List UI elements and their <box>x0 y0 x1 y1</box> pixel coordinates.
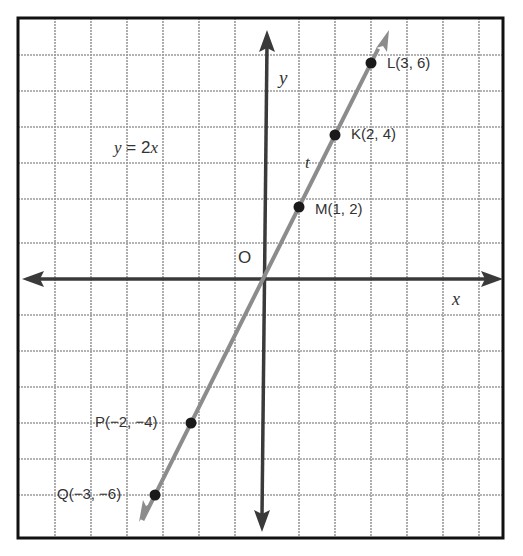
equation-label: y = 2x <box>114 139 158 156</box>
point-label-Q: Q(−3, −6) <box>57 486 121 501</box>
line-y-equals-2x <box>142 49 378 521</box>
point-label-L: L(3, 6) <box>387 55 430 70</box>
point-label-K: K(2, 4) <box>351 126 396 141</box>
point-K <box>330 130 341 141</box>
line-name-label: t <box>305 154 310 171</box>
point-Q <box>150 490 161 501</box>
equation-rhs: = 2 <box>122 138 151 157</box>
x-axis-label: x <box>452 290 460 308</box>
y-axis-label: y <box>279 68 287 87</box>
equation-lhs: y <box>114 138 122 157</box>
equation-var: x <box>150 138 158 157</box>
point-P <box>186 418 197 429</box>
point-label-M: M(1, 2) <box>315 201 363 216</box>
graph-canvas <box>0 0 523 556</box>
coordinate-plane-diagram: O x y y = 2x t L(3, 6) K(2, 4) M(1, 2) P… <box>0 0 523 556</box>
origin-label: O <box>238 249 251 266</box>
point-M <box>294 202 305 213</box>
point-label-P: P(−2, −4) <box>95 414 158 429</box>
point-L <box>366 58 377 69</box>
